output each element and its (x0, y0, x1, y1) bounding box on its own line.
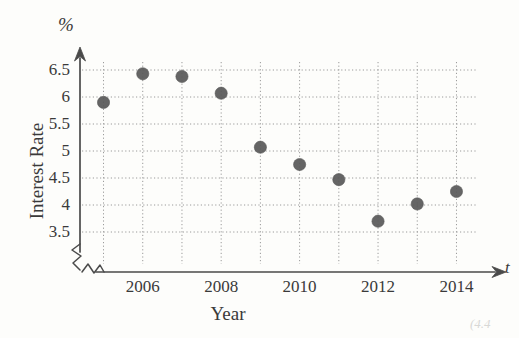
interest-rate-scatter-chart: 3.544.555.566.520062008201020122014 % t … (0, 0, 519, 338)
x-tick-label: 2006 (126, 277, 160, 297)
data-point (215, 87, 227, 99)
data-point (333, 174, 345, 186)
y-axis-unit-symbol: % (58, 14, 74, 36)
page-corner-artifact: (4.4 (470, 316, 491, 332)
y-tick-label: 6.5 (22, 60, 70, 80)
data-point (450, 185, 462, 197)
x-tick-label: 2012 (361, 277, 395, 297)
x-tick-label: 2008 (204, 277, 238, 297)
data-point (411, 198, 423, 210)
data-point (176, 70, 188, 82)
data-point (137, 68, 149, 80)
data-point (372, 215, 384, 227)
x-tick-label: 2010 (283, 277, 317, 297)
x-tick-label: 2014 (439, 277, 473, 297)
data-point (254, 141, 266, 153)
y-axis-title: Interest Rate (26, 101, 48, 241)
x-axis-title: Year (210, 303, 245, 325)
x-axis-variable-symbol: t (505, 258, 510, 278)
data-point (97, 96, 109, 108)
data-point (294, 158, 306, 170)
